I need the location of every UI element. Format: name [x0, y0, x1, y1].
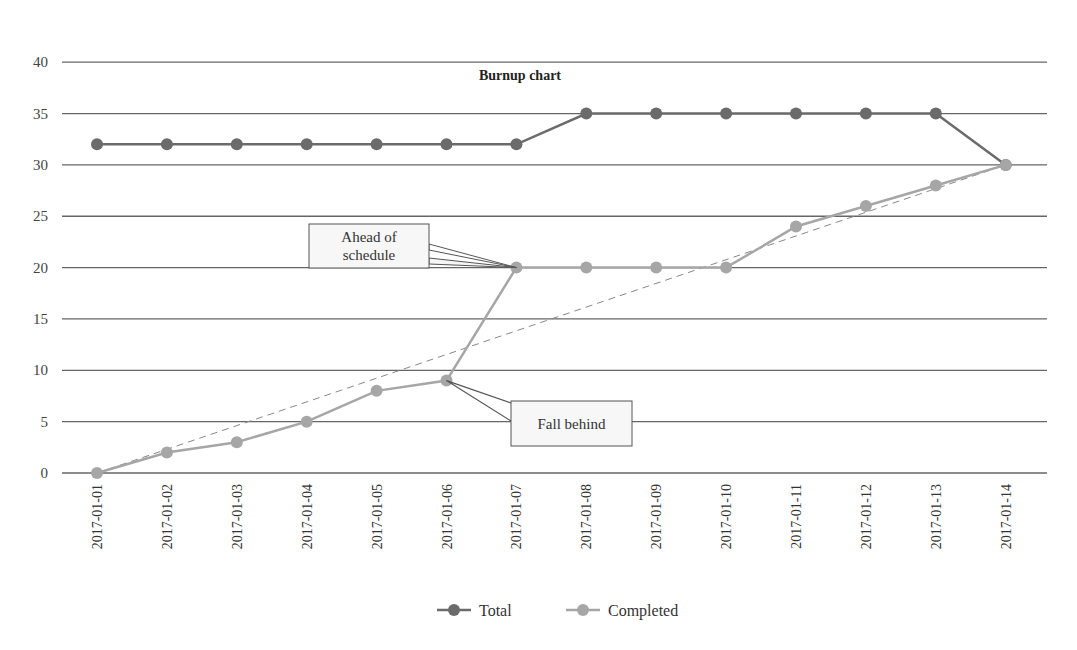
y-tick-label: 40	[33, 54, 48, 70]
x-tick-label: 2017-01-10	[719, 484, 734, 549]
x-tick-label: 2017-01-06	[440, 484, 455, 549]
data-point	[720, 262, 732, 274]
legend-item-completed: Completed	[566, 602, 678, 620]
data-point	[790, 108, 802, 120]
data-point	[580, 262, 592, 274]
legend-label: Completed	[608, 602, 678, 620]
data-point	[930, 108, 942, 120]
data-point	[441, 138, 453, 150]
callout-pointer	[429, 258, 516, 268]
data-point	[650, 262, 662, 274]
y-tick-label: 30	[33, 157, 48, 173]
y-tick-label: 35	[33, 106, 48, 122]
data-point	[91, 138, 103, 150]
callout-pointer	[447, 381, 512, 421]
x-tick-label: 2017-01-08	[579, 484, 594, 549]
data-point	[231, 138, 243, 150]
annotation-text: Ahead of	[341, 229, 396, 245]
x-tick-label: 2017-01-12	[859, 484, 874, 549]
series-total	[91, 108, 1012, 171]
y-tick-label: 25	[33, 208, 48, 224]
x-tick-label: 2017-01-13	[929, 484, 944, 549]
x-tick-label: 2017-01-07	[509, 484, 524, 549]
data-point	[580, 108, 592, 120]
data-point	[510, 138, 522, 150]
x-tick-label: 2017-01-11	[789, 484, 804, 549]
annotations: Ahead ofscheduleFall behind	[309, 224, 632, 446]
x-tick-label: 2017-01-03	[230, 484, 245, 549]
data-point	[790, 221, 802, 233]
legend-marker-icon	[448, 604, 460, 616]
legend-label: Total	[479, 602, 512, 619]
x-tick-label: 2017-01-02	[160, 484, 175, 549]
chart-title: Burnup chart	[479, 68, 561, 83]
data-point	[161, 446, 173, 458]
y-tick-label: 0	[41, 465, 49, 481]
data-point	[301, 138, 313, 150]
x-tick-label: 2017-01-01	[90, 484, 105, 549]
x-tick-label: 2017-01-14	[999, 484, 1014, 549]
data-point	[1000, 159, 1012, 171]
data-point	[371, 138, 383, 150]
legend-marker-icon	[577, 604, 589, 616]
x-tick-label: 2017-01-05	[370, 484, 385, 549]
y-tick-label: 10	[33, 362, 48, 378]
y-tick-label: 5	[41, 414, 49, 430]
data-point	[930, 179, 942, 191]
y-axis-ticks: 0510152025303540	[33, 54, 48, 481]
y-tick-label: 15	[33, 311, 48, 327]
data-point	[650, 108, 662, 120]
data-point	[91, 467, 103, 479]
annotation-text: schedule	[343, 247, 396, 263]
x-tick-label: 2017-01-09	[649, 484, 664, 549]
data-point	[371, 385, 383, 397]
data-point	[161, 138, 173, 150]
annotation-ahead-of-schedule: Ahead ofschedule	[309, 224, 516, 268]
x-tick-label: 2017-01-04	[300, 484, 315, 549]
burnup-chart: Burnup chart 0510152025303540 2017-01-01…	[0, 0, 1077, 650]
annotation-text: Fall behind	[538, 416, 606, 432]
legend-item-total: Total	[437, 602, 512, 619]
data-point	[860, 200, 872, 212]
data-point	[301, 416, 313, 428]
y-tick-label: 20	[33, 260, 48, 276]
data-point	[860, 108, 872, 120]
x-axis-ticks: 2017-01-012017-01-022017-01-032017-01-04…	[90, 484, 1014, 549]
series-line	[97, 114, 1006, 165]
legend: TotalCompleted	[437, 602, 678, 620]
data-point	[231, 436, 243, 448]
annotation-fall-behind: Fall behind	[447, 381, 633, 446]
data-point	[720, 108, 732, 120]
